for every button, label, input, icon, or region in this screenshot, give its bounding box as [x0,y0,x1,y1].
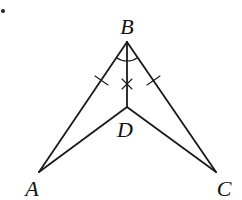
segment-ba [39,42,127,172]
segment-da [39,107,127,172]
vertex-label-b: B [120,16,133,38]
angle-arc-dbc [127,58,138,61]
angle-arc-abd [116,58,127,61]
vertex-label-d: D [117,119,133,141]
vertex-label-a: A [25,178,38,200]
segment-dc [127,107,216,172]
vertex-label-c: C [217,178,232,200]
tick-mark-ba [95,76,108,85]
segment-bc [127,42,216,172]
tick-mark-bc [147,76,160,85]
